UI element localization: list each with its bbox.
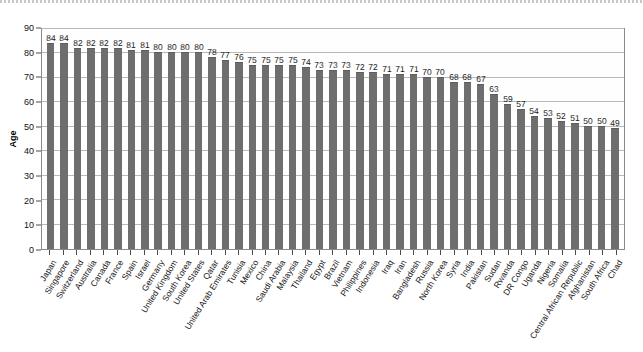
bar-slot: 52 <box>555 29 568 249</box>
x-tick <box>319 250 320 255</box>
bar-slot: 70 <box>420 29 433 249</box>
x-tick-slot <box>232 250 245 255</box>
bar-slot: 54 <box>528 29 541 249</box>
bar <box>60 43 68 249</box>
bar-value-label: 49 <box>610 118 620 128</box>
x-tick-slot <box>191 250 204 255</box>
bar <box>558 121 566 249</box>
bar-value-label: 82 <box>100 38 110 48</box>
x-tick <box>575 250 576 255</box>
x-tick-slot <box>178 250 191 255</box>
x-tick <box>548 250 549 255</box>
bar <box>316 70 324 249</box>
y-tick-label: 60 <box>24 97 34 107</box>
bar-value-label: 57 <box>516 99 526 109</box>
y-tick-label: 30 <box>24 171 34 181</box>
x-tick <box>117 250 118 255</box>
x-tick <box>454 250 455 255</box>
bar-value-label: 81 <box>140 40 150 50</box>
bar-value-label: 82 <box>113 38 123 48</box>
bar <box>584 126 592 249</box>
bar-slot: 78 <box>205 29 218 249</box>
bar-value-label: 76 <box>234 52 244 62</box>
bar-slot: 72 <box>353 29 366 249</box>
y-tick-label: 40 <box>24 146 34 156</box>
y-tick-label: 70 <box>24 72 34 82</box>
bar <box>302 67 310 249</box>
bar-value-label: 80 <box>153 42 163 52</box>
bar-value-label: 82 <box>73 38 83 48</box>
bar-slot: 51 <box>568 29 581 249</box>
bar-slot: 68 <box>447 29 460 249</box>
bar <box>571 123 579 249</box>
x-tick <box>562 250 563 255</box>
bar-value-label: 75 <box>248 55 258 65</box>
x-label-slot: United Arab Emirates <box>218 256 231 350</box>
y-tick-label: 20 <box>24 196 34 206</box>
y-tick-label: 80 <box>24 48 34 58</box>
x-tick-slot <box>488 250 501 255</box>
bar-slot: 80 <box>192 29 205 249</box>
bar-value-label: 52 <box>557 111 567 121</box>
x-tick-slot <box>97 250 110 255</box>
bar-slot: 67 <box>474 29 487 249</box>
x-tick <box>346 250 347 255</box>
bar <box>329 70 337 249</box>
bar-slot: 82 <box>111 29 124 249</box>
bar-slot: 50 <box>595 29 608 249</box>
y-axis-title: Age <box>8 130 18 147</box>
bar <box>410 74 418 249</box>
x-tick-slot <box>421 250 434 255</box>
x-tick <box>521 250 522 255</box>
bar <box>517 109 525 249</box>
x-axis: JapanSingaporeSwitzerlandAustraliaCanada… <box>41 250 625 350</box>
bar <box>249 65 257 249</box>
bar-value-label: 71 <box>395 64 405 74</box>
bar <box>289 65 297 249</box>
x-tick-slot <box>299 250 312 255</box>
bar-value-label: 75 <box>274 55 284 65</box>
bar-value-label: 73 <box>315 60 325 70</box>
x-tick-slot <box>569 250 582 255</box>
bar-value-label: 59 <box>503 94 513 104</box>
bar <box>74 48 82 249</box>
x-tick-slot <box>448 250 461 255</box>
x-tick-slot <box>83 250 96 255</box>
bar <box>356 72 364 249</box>
x-axis-ticks <box>41 250 625 255</box>
bar-value-label: 51 <box>570 113 580 123</box>
bar <box>114 48 122 249</box>
bar-slot: 75 <box>286 29 299 249</box>
x-tick <box>90 250 91 255</box>
x-tick <box>494 250 495 255</box>
x-tick <box>481 250 482 255</box>
x-tick-slot <box>340 250 353 255</box>
bar-slot: 59 <box>501 29 514 249</box>
x-tick <box>238 250 239 255</box>
x-tick <box>292 250 293 255</box>
x-tick-slot <box>43 250 56 255</box>
bar-value-label: 84 <box>46 33 56 43</box>
bar <box>611 128 619 249</box>
x-tick <box>467 250 468 255</box>
x-tick-slot <box>582 250 595 255</box>
bar-value-label: 63 <box>489 84 499 94</box>
x-tick <box>157 250 158 255</box>
bar-slot: 76 <box>232 29 245 249</box>
bar <box>383 74 391 249</box>
x-tick-slot <box>596 250 609 255</box>
bar-slot: 70 <box>434 29 447 249</box>
bar <box>490 94 498 249</box>
bar <box>343 70 351 249</box>
bar-slot: 50 <box>582 29 595 249</box>
bar-slot: 72 <box>367 29 380 249</box>
bar-slot: 80 <box>178 29 191 249</box>
x-tick <box>225 250 226 255</box>
x-tick <box>359 250 360 255</box>
x-tick <box>508 250 509 255</box>
bar-value-label: 50 <box>597 116 607 126</box>
x-tick-slot <box>326 250 339 255</box>
bars-layer: 8484828282828181808080807877767575757574… <box>42 29 624 249</box>
x-tick-slot <box>70 250 83 255</box>
bar <box>87 48 95 249</box>
